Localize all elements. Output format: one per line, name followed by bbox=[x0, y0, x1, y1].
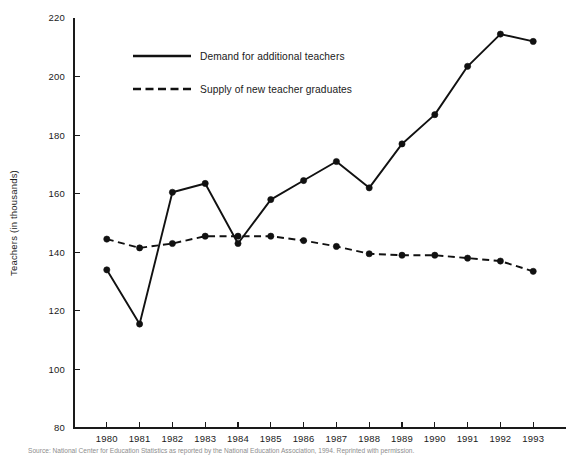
data-point bbox=[104, 236, 110, 242]
x-axis-tick-label: 1988 bbox=[358, 433, 380, 444]
data-point bbox=[202, 233, 208, 239]
x-axis-tick-label: 1984 bbox=[227, 433, 249, 444]
data-point bbox=[465, 255, 471, 261]
x-axis-tick-label: 1982 bbox=[161, 433, 183, 444]
data-point bbox=[104, 267, 110, 273]
data-point bbox=[301, 237, 307, 243]
data-point bbox=[301, 177, 307, 183]
data-series-layer bbox=[104, 31, 537, 327]
data-point bbox=[268, 196, 274, 202]
y-axis-tick-label: 140 bbox=[49, 247, 65, 258]
data-point bbox=[366, 251, 372, 257]
plot-axes bbox=[74, 18, 566, 428]
data-point bbox=[169, 189, 175, 195]
data-point bbox=[235, 240, 241, 246]
x-axis-tick-label: 1989 bbox=[391, 433, 413, 444]
data-point bbox=[137, 245, 143, 251]
data-point bbox=[169, 240, 175, 246]
series-line bbox=[107, 34, 533, 324]
x-axis-tick-label: 1985 bbox=[260, 433, 282, 444]
x-axis-tick-label: 1993 bbox=[522, 433, 544, 444]
source-note: Source: National Center for Education St… bbox=[28, 447, 576, 455]
x-axis-tick-label: 1987 bbox=[325, 433, 347, 444]
x-axis-tick-label: 1992 bbox=[489, 433, 511, 444]
data-point bbox=[497, 31, 503, 37]
data-point bbox=[202, 180, 208, 186]
series-2 bbox=[104, 233, 537, 274]
x-axis-tick-label: 1981 bbox=[129, 433, 151, 444]
data-point bbox=[137, 321, 143, 327]
chart-figure: 80100120140160180200220 1980198119821983… bbox=[0, 0, 576, 456]
line-chart: 80100120140160180200220 1980198119821983… bbox=[0, 0, 576, 456]
data-point bbox=[465, 63, 471, 69]
chart-legend: Demand for additional teachersSupply of … bbox=[133, 51, 352, 95]
y-axis-tick-label: 80 bbox=[54, 422, 65, 433]
data-point bbox=[399, 252, 405, 258]
data-point bbox=[530, 38, 536, 44]
x-axis-tick-labels: 1980198119821983198419851986198719881989… bbox=[96, 433, 544, 444]
data-point bbox=[268, 233, 274, 239]
data-point bbox=[333, 158, 339, 164]
x-axis-tick-label: 1990 bbox=[424, 433, 446, 444]
y-axis-tick-label: 180 bbox=[49, 130, 65, 141]
x-axis-tick-label: 1991 bbox=[457, 433, 479, 444]
data-point bbox=[497, 258, 503, 264]
series-1 bbox=[104, 31, 537, 327]
y-axis-tick-label: 220 bbox=[49, 12, 65, 23]
data-point bbox=[530, 268, 536, 274]
data-point bbox=[399, 141, 405, 147]
y-axis-tick-labels: 80100120140160180200220 bbox=[49, 12, 65, 433]
legend-label-1: Demand for additional teachers bbox=[200, 51, 345, 62]
y-axis-tick-label: 120 bbox=[49, 305, 65, 316]
y-axis-ticks bbox=[74, 77, 80, 370]
data-point bbox=[333, 243, 339, 249]
y-axis-tick-label: 160 bbox=[49, 188, 65, 199]
x-axis-ticks bbox=[107, 422, 533, 428]
x-axis-tick-label: 1983 bbox=[194, 433, 216, 444]
data-point bbox=[235, 233, 241, 239]
data-point bbox=[432, 112, 438, 118]
data-point bbox=[432, 252, 438, 258]
x-axis-tick-label: 1986 bbox=[293, 433, 315, 444]
y-axis-title: Teachers (in thousands) bbox=[8, 170, 19, 276]
legend-label-2: Supply of new teacher graduates bbox=[200, 84, 352, 95]
x-axis-tick-label: 1980 bbox=[96, 433, 118, 444]
y-axis-tick-label: 100 bbox=[49, 364, 65, 375]
data-point bbox=[366, 185, 372, 191]
y-axis-tick-label: 200 bbox=[49, 71, 65, 82]
axis-lines bbox=[74, 18, 566, 428]
